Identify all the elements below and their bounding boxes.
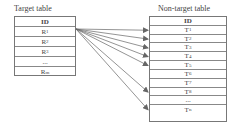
- mapping-arrow: [76, 29, 148, 110]
- mapping-arrow: [76, 29, 148, 57]
- mapping-arrow: [76, 29, 148, 39]
- mapping-arrow: [76, 29, 148, 30]
- mapping-arrows: [0, 0, 238, 134]
